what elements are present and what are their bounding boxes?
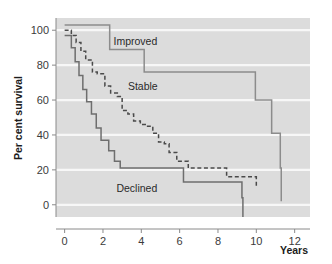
- annotation-declined: Declined: [116, 182, 157, 194]
- y-tick-label-100: 100: [31, 24, 49, 36]
- annotation-stable: Stable: [128, 80, 158, 92]
- x-tick-label-10: 10: [250, 235, 262, 247]
- x-axis-title: Years: [280, 244, 308, 256]
- y-tick-label-0: 0: [43, 199, 49, 211]
- y-tick-label-60: 60: [37, 94, 49, 106]
- x-tick-label-4: 4: [138, 235, 144, 247]
- x-tick-label-0: 0: [62, 235, 68, 247]
- y-tick-label-40: 40: [37, 129, 49, 141]
- y-axis-title: Per cent survival: [12, 76, 24, 160]
- x-tick-label-2: 2: [100, 235, 106, 247]
- chart-canvas: 020406080100 024681012 ImprovedStableDec…: [0, 0, 332, 264]
- y-tick-label-20: 20: [37, 164, 49, 176]
- annotation-improved: Improved: [114, 35, 158, 47]
- y-tick-label-80: 80: [37, 59, 49, 71]
- survival-chart: 020406080100 024681012 ImprovedStableDec…: [0, 0, 332, 264]
- x-tick-label-8: 8: [215, 235, 221, 247]
- x-tick-label-6: 6: [177, 235, 183, 247]
